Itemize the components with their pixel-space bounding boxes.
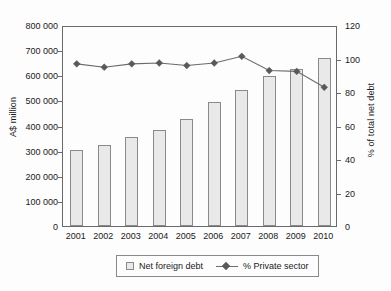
- y-axis-left-title: A$ million: [8, 77, 18, 157]
- y-axis-right-tick-label: 100: [345, 55, 385, 65]
- y-axis-left-tick-label: 300 000: [0, 147, 58, 157]
- diamond-marker: [101, 64, 108, 71]
- y-axis-right-tick-label: 120: [345, 21, 385, 31]
- y-axis-right-tick-label: 20: [345, 189, 385, 199]
- diamond-marker: [238, 53, 245, 60]
- chart-figure: A$ million % of total net debt 0100 0002…: [0, 0, 391, 291]
- line-path: [77, 56, 325, 87]
- x-axis-tick-label: 2010: [306, 231, 340, 241]
- y-axis-left-tick-label: 0: [0, 222, 58, 232]
- diamond-marker-icon: [222, 262, 230, 270]
- diamond-marker: [293, 68, 300, 75]
- diamond-marker: [183, 62, 190, 69]
- y-axis-left-tick-label: 500 000: [0, 96, 58, 106]
- legend-label-net-foreign-debt: Net foreign debt: [139, 261, 203, 271]
- diamond-marker: [321, 84, 328, 91]
- diamond-marker: [266, 67, 273, 74]
- y-axis-right-tick-label: 80: [345, 88, 385, 98]
- diamond-marker: [156, 60, 163, 67]
- y-axis-right-tick-label: 60: [345, 122, 385, 132]
- y-axis-right-tick-label: 0: [345, 222, 385, 232]
- y-axis-right-tick-label: 40: [345, 155, 385, 165]
- y-axis-left-tick-label: 600 000: [0, 71, 58, 81]
- legend-item-net-foreign-debt: Net foreign debt: [126, 261, 203, 271]
- y-axis-left-tick-label: 100 000: [0, 197, 58, 207]
- line-series: [63, 27, 338, 228]
- y-axis-left-tick-label: 800 000: [0, 21, 58, 31]
- line-diamond-swatch-icon: [216, 262, 238, 271]
- y-axis-left-tick-label: 400 000: [0, 122, 58, 132]
- diamond-marker: [211, 60, 218, 67]
- legend-label-private-sector: % Private sector: [243, 261, 309, 271]
- diamond-marker: [128, 60, 135, 67]
- line-markers: [73, 53, 327, 91]
- plot-area: [62, 26, 337, 227]
- plot-inner: [63, 27, 336, 226]
- bar-swatch-icon: [126, 262, 134, 270]
- chart-legend: Net foreign debt % Private sector: [116, 255, 319, 277]
- diamond-marker: [73, 60, 80, 67]
- y-axis-left-tick-label: 200 000: [0, 172, 58, 182]
- legend-item-private-sector: % Private sector: [216, 261, 309, 271]
- y-axis-left-tick-label: 700 000: [0, 46, 58, 56]
